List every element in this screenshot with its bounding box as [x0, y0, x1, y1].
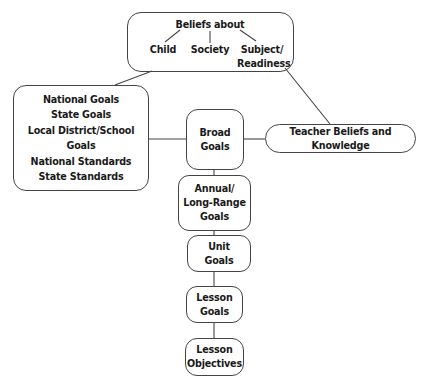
- teacher-beliefs-box: Teacher Beliefs and Knowledge: [265, 124, 416, 153]
- national-standards: National Standards: [31, 154, 132, 170]
- lesson-goals-line1: Lesson: [196, 291, 232, 305]
- unit-goals-box: Unit Goals: [187, 235, 251, 272]
- external-goals-box: National Goals State Goals Local Distric…: [13, 85, 149, 191]
- beliefs-readiness: Readiness: [237, 57, 287, 71]
- annual-line2: Long-Range: [183, 196, 245, 210]
- lesson-goals-line2: Goals: [200, 305, 229, 319]
- beliefs-society: Society: [190, 43, 230, 57]
- annual-line1: Annual/: [195, 182, 235, 196]
- state-goals: State Goals: [51, 107, 111, 123]
- broad-line1: Broad: [200, 126, 231, 140]
- lesson-objectives-box: Lesson Objectives: [185, 338, 244, 376]
- annual-goals-box: Annual/ Long-Range Goals: [178, 175, 251, 231]
- state-standards: State Standards: [39, 169, 124, 185]
- beliefs-title: Beliefs about: [170, 18, 250, 32]
- beliefs-child: Child: [143, 43, 183, 57]
- national-goals: National Goals: [43, 92, 119, 108]
- annual-line3: Goals: [200, 210, 229, 224]
- unit-line2: Goals: [205, 254, 234, 268]
- lesson-obj-line1: Lesson: [196, 343, 232, 357]
- beliefs-subject: Subject/: [237, 43, 287, 57]
- local-goals: Local District/School Goals: [14, 123, 148, 154]
- broad-goals-box: Broad Goals: [186, 109, 244, 170]
- unit-line1: Unit: [208, 240, 230, 254]
- broad-line2: Goals: [201, 140, 230, 154]
- lesson-goals-box: Lesson Goals: [186, 286, 243, 323]
- teacher-label: Teacher Beliefs and Knowledge: [266, 125, 415, 153]
- lesson-obj-line2: Objectives: [187, 357, 242, 371]
